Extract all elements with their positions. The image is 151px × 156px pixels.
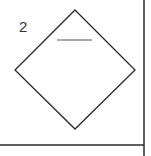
diagram-number-label: 2: [19, 19, 27, 34]
diagram-canvas: 2: [0, 0, 151, 156]
diamond-shape: [15, 10, 135, 129]
